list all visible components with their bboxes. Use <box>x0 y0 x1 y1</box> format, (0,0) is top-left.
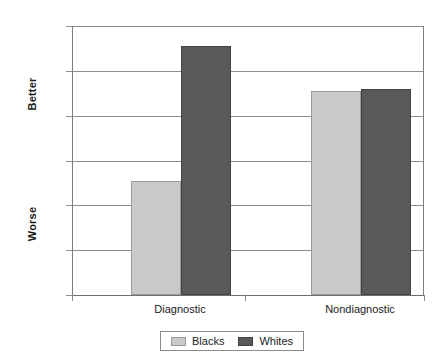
legend-entry-whites: Whites <box>238 335 293 347</box>
bar-diagnostic-whites <box>181 46 231 295</box>
chart-legend: BlacksWhites <box>160 331 304 351</box>
legend-swatch-whites <box>238 337 253 346</box>
y-axis-worse-label: Worse <box>26 204 38 244</box>
legend-swatch-blacks <box>171 337 186 346</box>
bar-nondiagnostic-blacks <box>311 91 361 295</box>
x-axis-tick-mark <box>72 295 73 301</box>
legend-label: Blacks <box>192 335 224 347</box>
y-axis-better-label: Better <box>26 74 38 114</box>
legend-entry-blacks: Blacks <box>171 335 224 347</box>
bar-chart-figure: Better Worse 024681012 DiagnosticNondiag… <box>0 0 444 362</box>
x-axis-label-diagnostic: Diagnostic <box>154 303 205 315</box>
bar-diagnostic-blacks <box>131 181 181 295</box>
x-axis-tick-mark <box>245 295 246 301</box>
bar-nondiagnostic-whites <box>361 89 411 295</box>
gridline <box>73 71 423 72</box>
gridline <box>73 26 423 27</box>
plot-area <box>72 26 424 295</box>
legend-label: Whites <box>259 335 293 347</box>
x-axis-label-nondiagnostic: Nondiagnostic <box>325 303 395 315</box>
x-axis-line <box>72 295 424 296</box>
x-axis-tick-mark <box>424 295 425 301</box>
